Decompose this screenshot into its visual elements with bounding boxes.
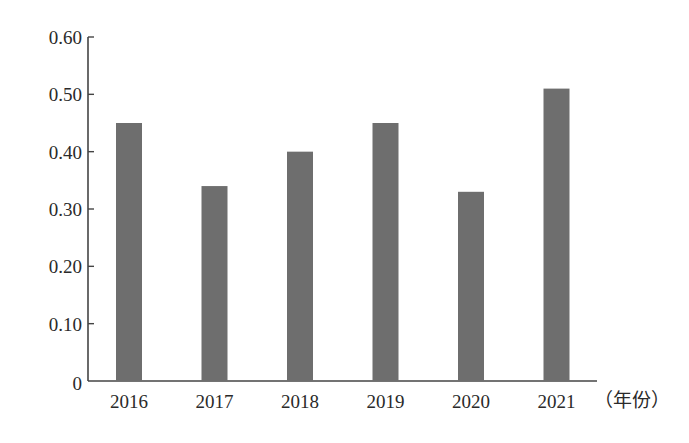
y-axis: 00.100.200.300.400.500.60 (49, 27, 94, 394)
y-tick-label: 0.40 (49, 142, 82, 163)
bar-2020 (458, 192, 484, 381)
x-tick-label: 2019 (367, 391, 405, 412)
x-tick-label: 2021 (538, 391, 576, 412)
bar-2021 (544, 89, 570, 381)
x-tick-label: 2020 (452, 391, 490, 412)
y-tick-label: 0.30 (49, 199, 82, 220)
x-axis-unit-label: （年份） (594, 389, 670, 411)
bar-chart: 00.100.200.300.400.500.60 20162017201820… (0, 0, 689, 443)
bars (116, 89, 570, 381)
y-tick-label: 0 (73, 373, 83, 394)
bar-2019 (373, 123, 399, 381)
y-tick-label: 0.50 (49, 84, 82, 105)
bar-2017 (202, 186, 228, 381)
x-axis: 201620172018201920202021 (88, 381, 597, 412)
y-tick-label: 0.20 (49, 256, 82, 277)
bar-2018 (287, 152, 313, 381)
y-tick-label: 0.10 (49, 314, 82, 335)
x-tick-label: 2017 (196, 391, 234, 412)
y-tick-label: 0.60 (49, 27, 82, 48)
bar-2016 (116, 123, 142, 381)
x-tick-label: 2016 (110, 391, 148, 412)
x-tick-label: 2018 (281, 391, 319, 412)
